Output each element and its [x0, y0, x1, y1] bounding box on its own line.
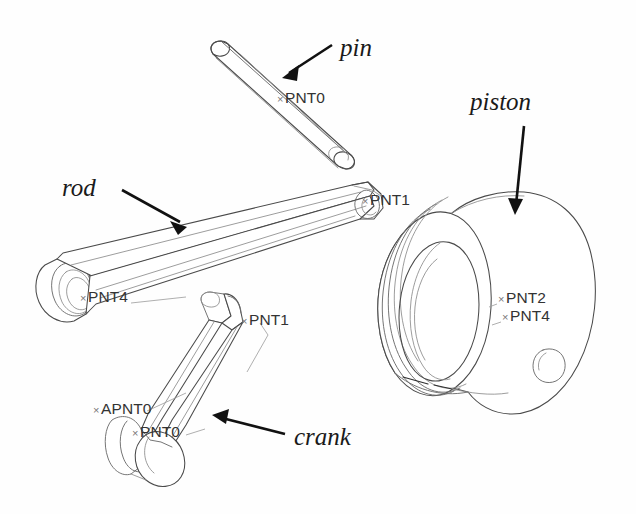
- datum-marker-piston-pnt4: ×: [502, 311, 508, 323]
- datum-label-pin-pnt0: PNT0: [285, 89, 325, 106]
- callout-arrow-crank: [212, 409, 285, 434]
- datum-label-rod-pnt1: PNT1: [370, 191, 410, 208]
- datum-label-piston-pnt2: PNT2: [506, 289, 546, 306]
- datum-marker-rod-pnt1: ×: [362, 195, 368, 207]
- part-label-crank: crank: [294, 423, 352, 450]
- callout-arrow-piston: [508, 126, 524, 215]
- part-label-rod: rod: [62, 174, 96, 201]
- datum-label-rod-pnt4: PNT4: [88, 288, 128, 305]
- callout-arrow-rod: [122, 190, 187, 235]
- part-pin-geometry: [211, 41, 354, 169]
- engineering-assembly-figure: pin rod piston crank × PNT0 × PNT1 × PNT…: [0, 0, 636, 514]
- datum-marker-crank-apnt0: ×: [93, 404, 99, 416]
- datum-marker-rod-pnt4: ×: [80, 292, 86, 304]
- datum-marker-pin-pnt0: ×: [277, 93, 283, 105]
- datum-marker-piston-pnt2: ×: [498, 293, 504, 305]
- datum-marker-crank-pnt1: ×: [241, 315, 247, 327]
- part-label-piston: piston: [468, 88, 531, 115]
- part-label-pin: pin: [338, 34, 372, 61]
- assembly-drawing-canvas: pin rod piston crank × PNT0 × PNT1 × PNT…: [0, 0, 636, 514]
- datum-label-crank-pnt1: PNT1: [249, 311, 289, 328]
- datum-label-crank-pnt0: PNT0: [140, 423, 180, 440]
- datum-label-piston-pnt4: PNT4: [510, 307, 550, 324]
- datum-label-crank-apnt0: APNT0: [101, 400, 152, 417]
- callout-arrow-pin: [282, 45, 332, 81]
- datum-marker-crank-pnt0: ×: [132, 427, 138, 439]
- part-piston-geometry: [378, 192, 596, 414]
